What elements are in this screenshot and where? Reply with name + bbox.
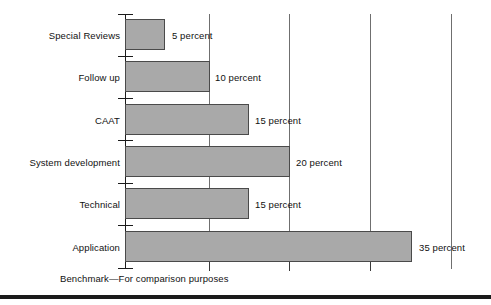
bar-application — [125, 231, 412, 262]
bar-row-application: Application 35 percent — [0, 231, 491, 262]
y-axis-tick-2 — [118, 98, 133, 99]
bar-row-follow-up: Follow up 10 percent — [0, 61, 491, 92]
bar-value-follow-up: 10 percent — [215, 71, 261, 82]
category-label-caat: CAAT — [95, 114, 120, 125]
bar-row-caat: CAAT 15 percent — [0, 104, 491, 135]
bar-value-application: 35 percent — [419, 241, 465, 252]
bar-row-system-development: System development 20 percent — [0, 146, 491, 177]
category-label-follow-up: Follow up — [78, 71, 120, 82]
bar-value-system-development: 20 percent — [296, 156, 342, 167]
x-axis-tick-20 — [289, 262, 290, 271]
category-label-technical: Technical — [79, 198, 120, 209]
category-label-application: Application — [72, 241, 120, 252]
plot-area: Special Reviews 5 percent Follow up 10 p… — [0, 0, 491, 290]
y-axis-tick-3 — [118, 140, 133, 141]
bar-caat — [125, 104, 249, 135]
bar-system-development — [125, 146, 290, 177]
y-axis-tick-bottom — [118, 268, 133, 269]
bar-row-special-reviews: Special Reviews 5 percent — [0, 19, 491, 50]
y-axis-tick-5 — [118, 225, 133, 226]
x-axis-tick-10 — [209, 262, 210, 271]
benchmark-caption: Benchmark—For comparison purposes — [60, 273, 229, 284]
y-axis-tick-4 — [118, 183, 133, 184]
bar-value-caat: 15 percent — [255, 114, 301, 125]
bar-technical — [125, 188, 249, 219]
category-label-special-reviews: Special Reviews — [49, 29, 120, 40]
category-label-system-development: System development — [29, 156, 120, 167]
bar-follow-up — [125, 61, 210, 92]
y-axis-tick-top — [118, 14, 133, 15]
bar-value-technical: 15 percent — [255, 198, 301, 209]
bar-special-reviews — [125, 19, 165, 50]
bar-row-technical: Technical 15 percent — [0, 188, 491, 219]
x-axis-tick-30 — [370, 262, 371, 271]
bar-value-special-reviews: 5 percent — [172, 29, 213, 40]
y-axis-tick-1 — [118, 56, 133, 57]
bar-chart-figure: Special Reviews 5 percent Follow up 10 p… — [0, 0, 491, 305]
bottom-rule-divider — [0, 295, 491, 299]
